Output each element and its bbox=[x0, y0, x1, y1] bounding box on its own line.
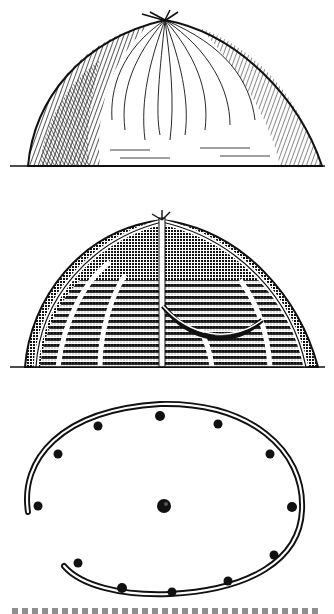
hut-ground-plan-drawing bbox=[0, 370, 334, 602]
clipped-caption-text bbox=[12, 608, 322, 614]
hut-exterior-drawing bbox=[0, 0, 334, 180]
center-post-hole bbox=[157, 499, 171, 513]
hut-framework-drawing bbox=[0, 200, 334, 380]
